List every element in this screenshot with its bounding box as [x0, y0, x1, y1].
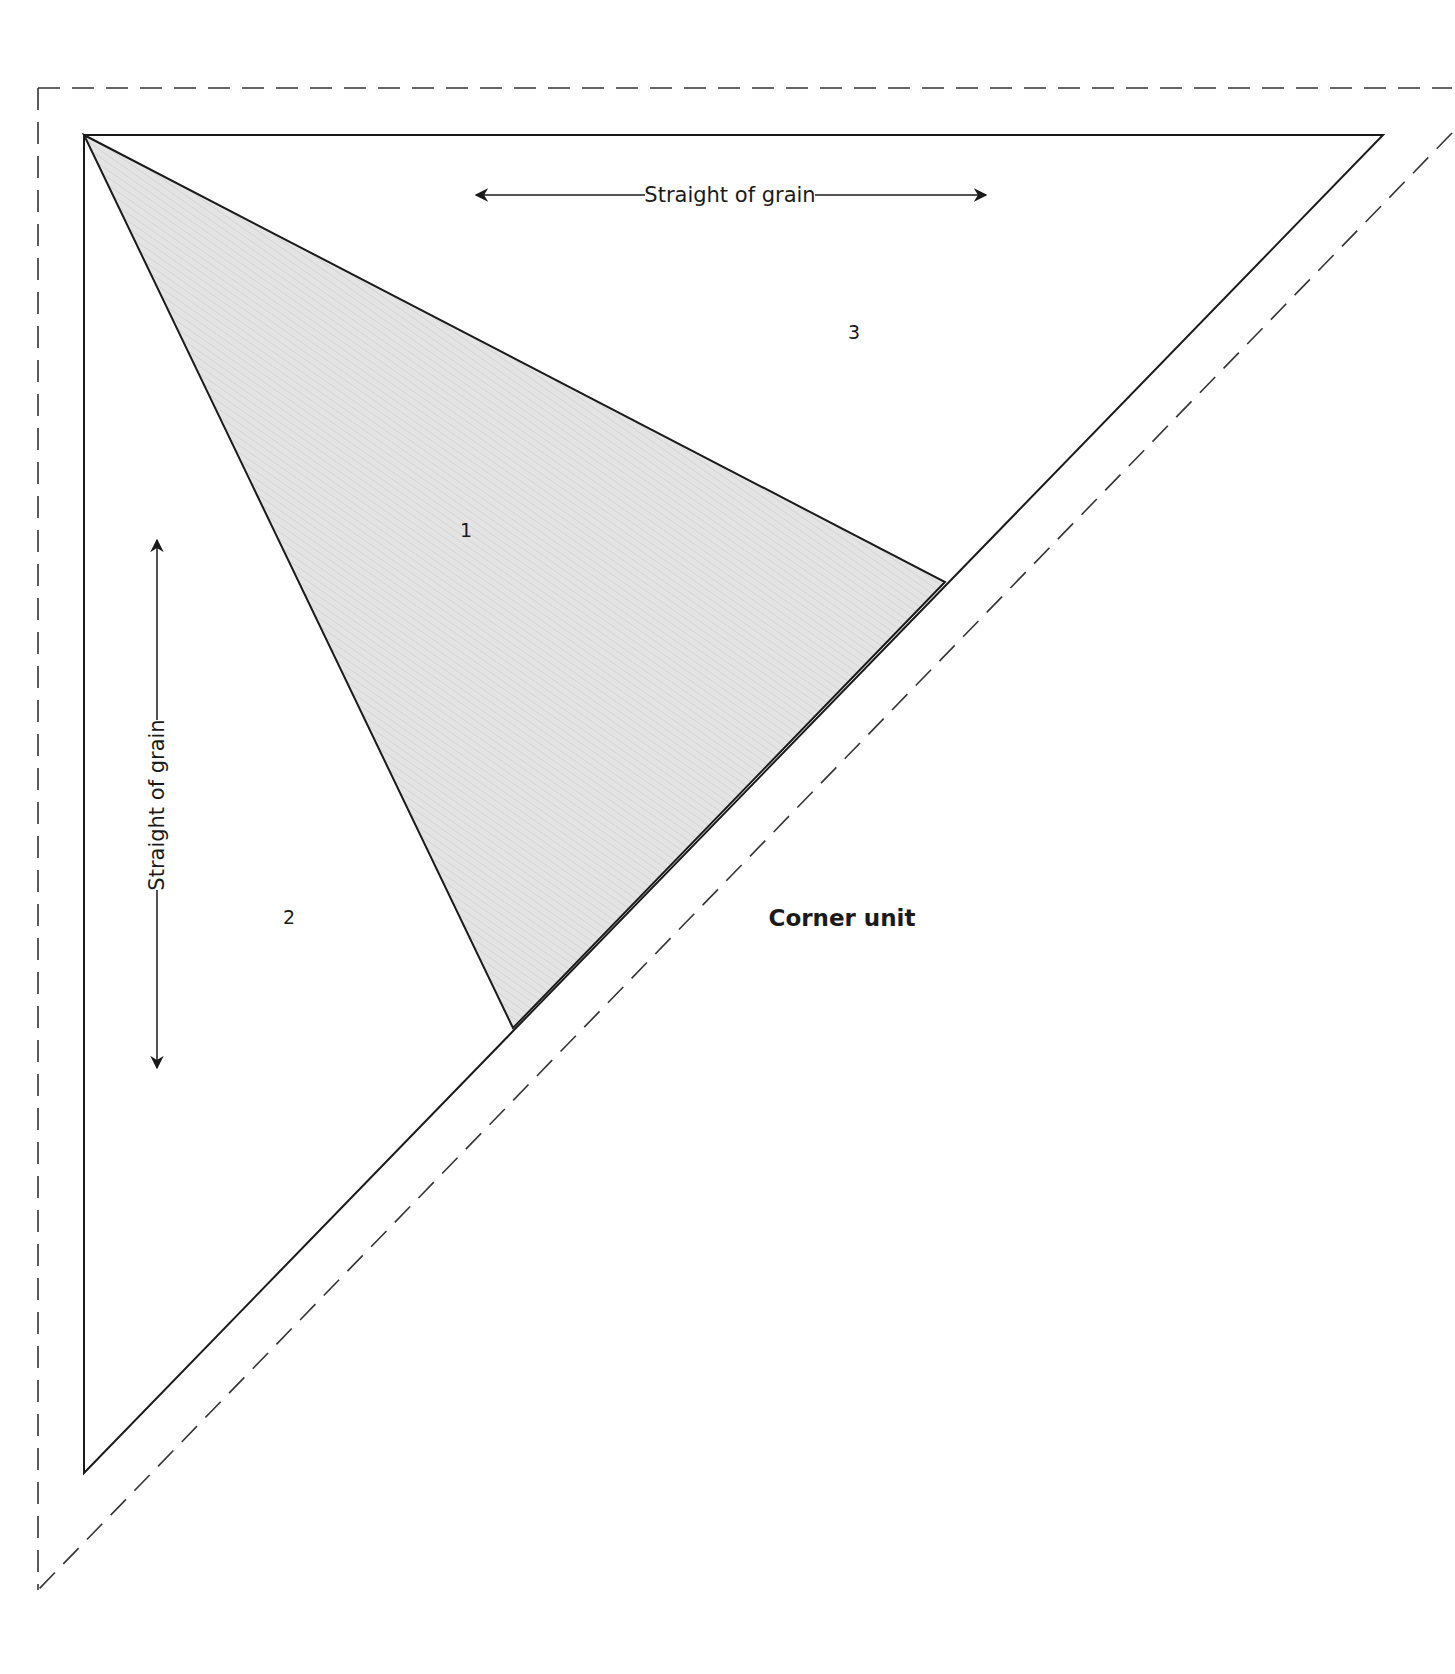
piece-label-2: 2	[283, 906, 295, 928]
diagram-title: Corner unit	[769, 905, 916, 931]
piece-1-shaded	[84, 135, 945, 1028]
piece-label-3: 3	[848, 321, 860, 343]
piece-label-1: 1	[460, 519, 472, 541]
grain-arrow-horizontal: Straight of grain	[476, 183, 986, 207]
grain-label-horizontal: Straight of grain	[644, 183, 815, 207]
grain-arrow-vertical: Straight of grain	[145, 540, 169, 1068]
grain-label-vertical: Straight of grain	[145, 719, 169, 890]
corner-unit-diagram: Straight of grain Straight of grain 1 2 …	[0, 0, 1455, 1674]
